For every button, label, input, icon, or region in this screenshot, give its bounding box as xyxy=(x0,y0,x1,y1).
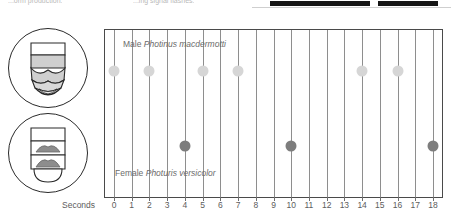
male-row-label: Male Photinus macdermotti xyxy=(123,39,226,49)
cropped-photo-strip-left xyxy=(270,1,370,6)
gridline-14 xyxy=(362,30,363,197)
axis-tick-label-9: 9 xyxy=(271,200,276,210)
gridline-8 xyxy=(256,30,257,197)
gridline-9 xyxy=(274,30,275,197)
axis-tick-label-17: 17 xyxy=(411,200,420,210)
flash-dot xyxy=(392,66,403,77)
gridline-6 xyxy=(220,30,221,197)
axis-tick-label-15: 15 xyxy=(375,200,384,210)
male-abdomen-drawing xyxy=(9,29,87,107)
caption-fragment-right: ...ing signal flashes. xyxy=(133,0,194,5)
gridline-12 xyxy=(327,30,328,197)
female-abdomen-illustration xyxy=(8,113,88,193)
top-caption-strip: ...orm production. ...ing signal flashes… xyxy=(0,0,451,12)
caption-fragment-left: ...orm production. xyxy=(8,0,62,5)
axis-tick-label-1: 1 xyxy=(129,200,134,210)
flash-dot xyxy=(109,66,120,77)
flash-dot xyxy=(197,66,208,77)
axis-tick-label-12: 12 xyxy=(322,200,331,210)
flash-dot xyxy=(179,141,190,152)
male-row-label-species: Photinus macdermotti xyxy=(144,39,226,49)
gridline-18 xyxy=(433,30,434,197)
flash-dot xyxy=(144,66,155,77)
gridline-17 xyxy=(415,30,416,197)
gridline-11 xyxy=(309,30,310,197)
male-abdomen-illustration xyxy=(8,28,88,108)
cropped-photo-strip-right xyxy=(378,1,438,6)
gridline-15 xyxy=(380,30,381,197)
axis-tick-label-5: 5 xyxy=(200,200,205,210)
flash-dot xyxy=(286,141,297,152)
flash-dot xyxy=(357,66,368,77)
gridline-16 xyxy=(398,30,399,197)
axis-tick-label-3: 3 xyxy=(165,200,170,210)
gridline-13 xyxy=(344,30,345,197)
axis-tick-label-8: 8 xyxy=(253,200,258,210)
axis-tick-label-10: 10 xyxy=(286,200,295,210)
gridline-10 xyxy=(291,30,292,197)
axis-tick-label-13: 13 xyxy=(340,200,349,210)
axis-tick-label-14: 14 xyxy=(357,200,366,210)
axis-tick-label-0: 0 xyxy=(112,200,117,210)
flash-dot xyxy=(233,66,244,77)
axis-title-seconds: Seconds xyxy=(62,200,95,210)
gridline-7 xyxy=(238,30,239,197)
female-row-label-species: Photuris versicolor xyxy=(146,168,216,178)
axis-tick-label-6: 6 xyxy=(218,200,223,210)
flash-dot xyxy=(428,141,439,152)
male-row-label-prefix: Male xyxy=(123,39,144,49)
axis-tick-label-16: 16 xyxy=(393,200,402,210)
caption-rule xyxy=(252,7,451,8)
axis-tick-label-11: 11 xyxy=(305,200,314,210)
flash-timing-chart: Male Photinus macdermotti Female Photuri… xyxy=(104,29,443,198)
female-row-label-prefix: Female xyxy=(115,168,146,178)
female-row-label: Female Photuris versicolor xyxy=(115,168,216,178)
female-abdomen-drawing xyxy=(9,114,87,192)
axis-tick-label-2: 2 xyxy=(147,200,152,210)
axis-tick-label-18: 18 xyxy=(428,200,437,210)
axis-tick-label-7: 7 xyxy=(236,200,241,210)
axis-tick-label-4: 4 xyxy=(183,200,188,210)
